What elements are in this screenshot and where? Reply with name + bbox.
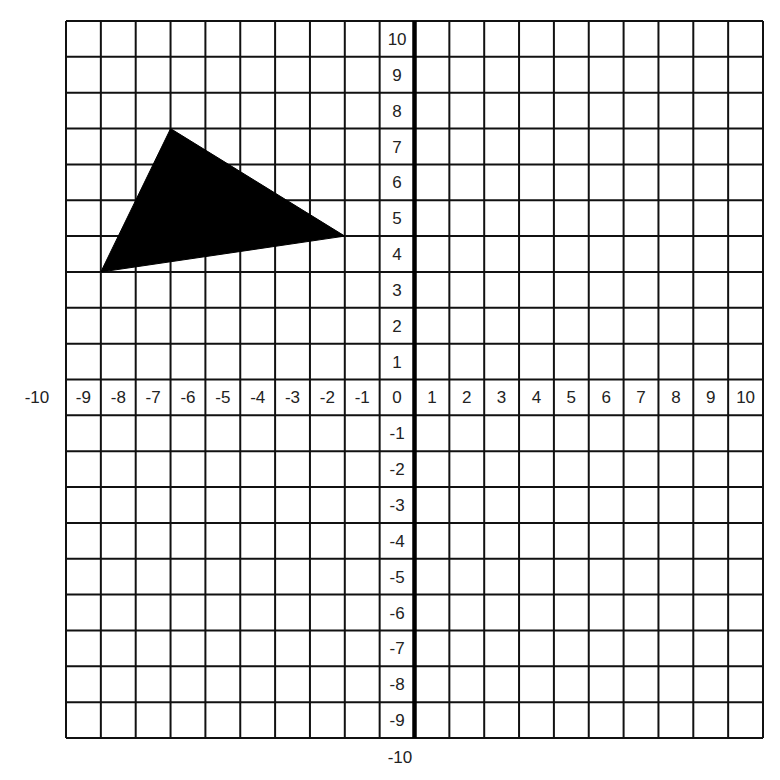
y-tick-label: -8: [390, 675, 405, 694]
coordinate-plane: -9-8-7-6-5-4-3-2-112345678910 1098765432…: [0, 0, 780, 780]
x-tick-label: 2: [462, 388, 471, 407]
x-axis-min-label: -10: [25, 388, 50, 407]
y-tick-label: 3: [392, 281, 401, 300]
y-tick-label: 10: [388, 30, 407, 49]
y-tick-label: -3: [390, 496, 405, 515]
x-tick-label: -4: [250, 388, 265, 407]
y-tick-label: 4: [392, 245, 401, 264]
y-tick-label: 7: [392, 138, 401, 157]
y-tick-label: -1: [390, 424, 405, 443]
x-tick-label: -8: [111, 388, 126, 407]
y-tick-label: 8: [392, 102, 401, 121]
x-tick-label: -6: [180, 388, 195, 407]
x-tick-label: -2: [320, 388, 335, 407]
x-tick-label: -9: [76, 388, 91, 407]
y-tick-label: -7: [390, 639, 405, 658]
x-tick-label: 3: [497, 388, 506, 407]
y-tick-label: 9: [392, 66, 401, 85]
x-tick-label: -5: [215, 388, 230, 407]
y-tick-label: 2: [392, 317, 401, 336]
x-tick-label: -7: [146, 388, 161, 407]
x-tick-label: 8: [671, 388, 680, 407]
x-tick-label: 4: [532, 388, 541, 407]
x-tick-label: 6: [601, 388, 610, 407]
x-tick-label: 1: [427, 388, 436, 407]
y-axis-min-label: -10: [388, 748, 413, 767]
y-tick-label: -5: [390, 568, 405, 587]
y-tick-label: -9: [390, 711, 405, 730]
x-tick-label: 10: [736, 388, 755, 407]
y-tick-label: 0: [392, 388, 401, 407]
x-tick-label: 7: [636, 388, 645, 407]
x-tick-label: -3: [285, 388, 300, 407]
x-tick-label: 5: [567, 388, 576, 407]
y-tick-label: 1: [392, 353, 401, 372]
y-tick-label: 6: [392, 173, 401, 192]
y-tick-label: -4: [390, 532, 405, 551]
x-tick-label: -1: [355, 388, 370, 407]
y-tick-label: -2: [390, 460, 405, 479]
y-tick-label: -6: [390, 604, 405, 623]
y-tick-label: 5: [392, 209, 401, 228]
x-tick-label: 9: [706, 388, 715, 407]
